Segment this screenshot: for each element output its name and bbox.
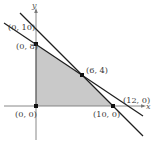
label-0-0: (0, 0) <box>15 109 37 119</box>
point-6-4 <box>80 73 84 77</box>
point-0-0 <box>34 104 38 108</box>
feasible-region-diagram: y x (0, 10) (0, 8) (6, 4) (12, 0) (10, 0… <box>0 0 152 144</box>
feasible-region <box>36 44 113 106</box>
y-axis-label: y <box>31 1 37 10</box>
label-10-0: (10, 0) <box>93 109 120 119</box>
label-12-0: (12, 0) <box>123 95 150 105</box>
point-10-0 <box>111 104 115 108</box>
label-6-4: (6, 4) <box>86 65 108 75</box>
label-0-8: (0, 8) <box>16 41 38 51</box>
label-0-10: (0, 10) <box>8 22 35 32</box>
